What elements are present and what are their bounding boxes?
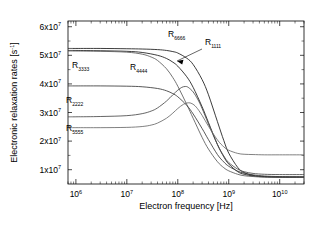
x-tick-exponent: 6 xyxy=(79,189,82,195)
curve-label-subscript: 3333 xyxy=(78,66,89,72)
chart-figure: 1x1072x1073x1074x1075x1076x107 106107108… xyxy=(0,0,318,232)
y-tick-exponent: 7 xyxy=(58,164,61,170)
y-tick-label: 5x107 xyxy=(40,50,62,61)
x-tick-exponent: 9 xyxy=(232,189,235,195)
x-tick-exponent: 10 xyxy=(281,189,287,195)
curve-label-subscript: 6666 xyxy=(174,35,185,41)
relaxation-rate-line-chart: 1x1072x1073x1074x1075x1076x107 106107108… xyxy=(0,0,318,232)
curve-label-subscript: 2222 xyxy=(72,101,83,107)
y-tick-label: 2x107 xyxy=(40,136,62,147)
y-tick-label: 1x107 xyxy=(40,164,62,175)
curve-label-subscript: 1111 xyxy=(211,43,221,49)
y-tick-exponent: 7 xyxy=(58,136,61,142)
y-axis-title-group: Electronic relaxation rates [s-1] xyxy=(9,42,19,162)
y-tick-exponent: 7 xyxy=(58,50,61,56)
y-tick-exponent: 7 xyxy=(58,21,61,27)
x-axis-title: Electron frequency [Hz] xyxy=(139,201,233,211)
y-tick-label: 6x107 xyxy=(40,21,62,32)
y-tick-exponent: 7 xyxy=(58,107,61,113)
y-tick-label: 3x107 xyxy=(40,107,62,118)
curve-label-subscript: 5555 xyxy=(72,129,83,135)
y-axis-title: Electronic relaxation rates [s-1] xyxy=(9,42,19,162)
y-axis-title-tail: ] xyxy=(9,42,19,45)
curve-label-subscript: 4444 xyxy=(136,68,147,74)
y-tick-exponent: 7 xyxy=(58,78,61,84)
x-tick-exponent: 8 xyxy=(181,189,184,195)
y-tick-label: 4x107 xyxy=(40,78,62,89)
x-tick-exponent: 7 xyxy=(130,189,133,195)
